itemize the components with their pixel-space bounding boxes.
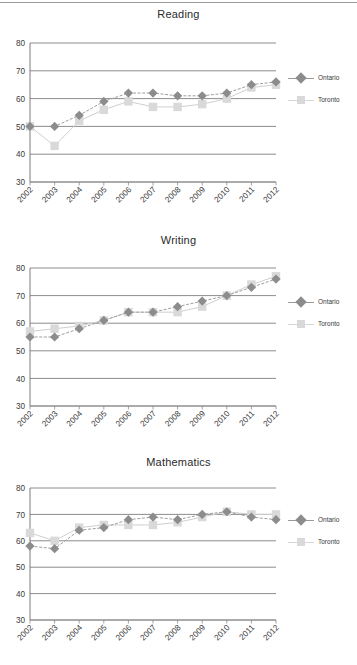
y-tick-label: 70 <box>16 292 26 301</box>
x-tick-label: 2006 <box>114 623 134 643</box>
x-tick-label: 2004 <box>65 623 85 643</box>
x-tick-label: 2003 <box>40 409 60 429</box>
legend-item-ontario: Ontario <box>288 72 340 84</box>
data-point-ontario <box>50 332 59 341</box>
x-tick-label: 2007 <box>139 185 159 205</box>
x-tick-label: 2003 <box>40 185 60 205</box>
x-tick-label: 2011 <box>237 409 256 428</box>
legend-swatch-ontario <box>288 296 314 308</box>
legend-item-toronto: Toronto <box>288 536 340 548</box>
legend-swatch-toronto <box>288 318 314 330</box>
chart-title-reading: Reading <box>0 6 357 20</box>
y-tick-label: 80 <box>16 264 26 273</box>
y-tick-label: 30 <box>16 178 26 187</box>
x-tick-label: 2008 <box>163 185 183 205</box>
data-point-toronto <box>26 529 34 537</box>
plot-area-reading: 3040506070802002200320042005200620072008… <box>0 20 357 225</box>
data-point-ontario <box>124 88 133 97</box>
x-tick-label: 2007 <box>139 409 159 429</box>
x-tick-label: 2010 <box>212 623 232 643</box>
legend-label-ontario: Ontario <box>318 75 339 82</box>
legend-label-ontario: Ontario <box>318 299 339 306</box>
x-tick-label: 2004 <box>65 185 85 205</box>
chart-block-writing: Writing 30405060708020022003200420052006… <box>0 232 357 454</box>
y-tick-label: 60 <box>16 319 26 328</box>
line-chart-writing: 3040506070802002200320042005200620072008… <box>0 246 357 449</box>
x-tick-label: 2005 <box>89 185 109 205</box>
legend-label-ontario: Ontario <box>318 517 339 524</box>
chart-block-mathematics: Mathematics 3040506070802002200320042005… <box>0 454 357 665</box>
y-tick-label: 40 <box>16 150 26 159</box>
y-tick-label: 50 <box>16 123 26 132</box>
x-tick-label: 2008 <box>163 409 183 429</box>
legend-swatch-ontario <box>288 72 314 84</box>
y-tick-label: 40 <box>16 375 26 384</box>
x-tick-label: 2009 <box>188 185 208 205</box>
legend-item-toronto: Toronto <box>288 94 340 106</box>
x-tick-label: 2008 <box>163 623 183 643</box>
y-tick-label: 60 <box>16 537 26 546</box>
x-tick-label: 2010 <box>212 409 232 429</box>
y-tick-label: 40 <box>16 590 26 599</box>
x-tick-label: 2006 <box>114 185 134 205</box>
x-tick-label: 2011 <box>237 185 256 204</box>
legend-item-ontario: Ontario <box>288 296 340 308</box>
legend-reading: Ontario Toronto <box>288 72 340 116</box>
line-chart-reading: 3040506070802002200320042005200620072008… <box>0 20 357 225</box>
data-point-ontario <box>50 122 59 131</box>
x-tick-label: 2009 <box>188 623 208 643</box>
legend-mathematics: Ontario Toronto <box>288 514 340 558</box>
legend-label-toronto: Toronto <box>318 539 340 546</box>
x-tick-label: 2012 <box>262 409 282 429</box>
legend-writing: Ontario Toronto <box>288 296 340 340</box>
data-point-ontario <box>99 97 108 106</box>
chart-block-reading: Reading 30405060708020022003200420052006… <box>0 6 357 230</box>
y-tick-label: 70 <box>16 511 26 520</box>
x-tick-label: 2005 <box>89 409 109 429</box>
legend-swatch-toronto <box>288 94 314 106</box>
x-tick-label: 2002 <box>16 623 36 643</box>
x-tick-label: 2002 <box>16 185 36 205</box>
x-tick-label: 2012 <box>262 623 282 643</box>
data-point-ontario <box>173 91 182 100</box>
y-tick-label: 30 <box>16 402 26 411</box>
legend-label-toronto: Toronto <box>318 97 340 104</box>
legend-swatch-toronto <box>288 536 314 548</box>
y-tick-label: 60 <box>16 95 26 104</box>
top-divider-rule <box>0 2 357 3</box>
x-tick-label: 2011 <box>237 623 256 642</box>
x-tick-label: 2012 <box>262 185 282 205</box>
x-tick-label: 2010 <box>212 185 232 205</box>
chart-title-writing: Writing <box>0 232 357 246</box>
x-tick-label: 2009 <box>188 409 208 429</box>
x-tick-label: 2004 <box>65 409 85 429</box>
data-point-toronto <box>124 97 132 105</box>
x-tick-label: 2006 <box>114 409 134 429</box>
plot-area-mathematics: 3040506070802002200320042005200620072008… <box>0 468 357 663</box>
y-tick-label: 80 <box>16 484 26 493</box>
y-tick-label: 50 <box>16 347 26 356</box>
plot-area-writing: 3040506070802002200320042005200620072008… <box>0 246 357 449</box>
y-tick-label: 30 <box>16 616 26 625</box>
data-point-toronto <box>149 521 157 529</box>
data-point-toronto <box>198 100 206 108</box>
chart-title-mathematics: Mathematics <box>0 454 357 468</box>
x-tick-label: 2002 <box>16 409 36 429</box>
line-chart-mathematics: 3040506070802002200320042005200620072008… <box>0 468 357 663</box>
data-point-ontario <box>25 541 34 550</box>
x-tick-label: 2005 <box>89 623 109 643</box>
data-point-toronto <box>50 537 58 545</box>
data-point-ontario <box>148 512 157 521</box>
data-point-toronto <box>50 142 58 150</box>
y-tick-label: 50 <box>16 563 26 572</box>
data-point-ontario <box>148 88 157 97</box>
y-tick-label: 70 <box>16 67 26 76</box>
y-tick-label: 80 <box>16 39 26 48</box>
data-point-ontario <box>50 544 59 553</box>
legend-swatch-ontario <box>288 514 314 526</box>
data-point-toronto <box>173 103 181 111</box>
legend-label-toronto: Toronto <box>318 321 340 328</box>
legend-item-toronto: Toronto <box>288 318 340 330</box>
figure-page: Reading 30405060708020022003200420052006… <box>0 0 357 665</box>
x-tick-label: 2003 <box>40 623 60 643</box>
